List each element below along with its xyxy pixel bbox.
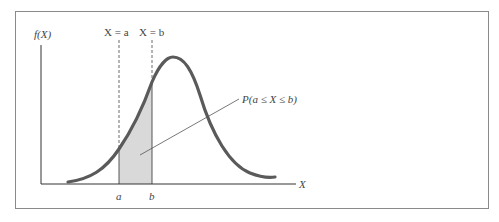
tick-label-a: a: [116, 190, 122, 202]
probability-area-label: P(a ≤ X ≤ b): [241, 93, 297, 106]
y-axis-label: f(X): [34, 28, 51, 41]
probability-density-diagram: f(X) X = a X = b P(a ≤ X ≤ b) X a b: [0, 0, 499, 222]
line-b-label: X = b: [139, 26, 165, 38]
line-a-label: X = a: [104, 26, 129, 38]
tick-label-b: b: [149, 190, 155, 202]
x-axis-label: X: [298, 178, 307, 190]
density-curve: [68, 57, 275, 182]
